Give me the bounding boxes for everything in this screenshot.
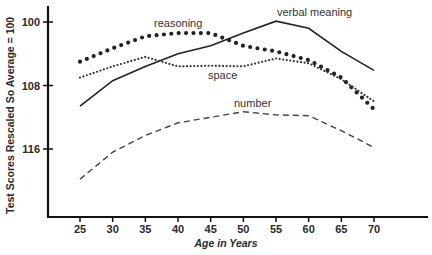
x-tick-label: 25 bbox=[74, 223, 86, 235]
x-tick-label: 50 bbox=[237, 223, 249, 235]
y-axis-title: Test Scores Rescaled So Average = 100 bbox=[4, 17, 16, 214]
label-reasoning: reasoning bbox=[154, 17, 202, 29]
label-number: number bbox=[234, 97, 272, 109]
y-tick-label: 100 bbox=[22, 16, 40, 28]
series-number bbox=[80, 112, 374, 180]
line-chart: 116108100 25303540455055606570 Test Scor… bbox=[0, 0, 432, 255]
x-tick-label: 65 bbox=[335, 223, 347, 235]
label-verbal-meaning: verbal meaning bbox=[277, 6, 352, 18]
x-tick-label: 70 bbox=[368, 223, 380, 235]
x-axis-title: Age in Years bbox=[193, 237, 257, 249]
x-tick-label: 35 bbox=[139, 223, 151, 235]
label-space: space bbox=[208, 69, 237, 81]
y-tick-label: 108 bbox=[22, 80, 40, 92]
series-group bbox=[80, 21, 374, 179]
x-tick-label: 45 bbox=[205, 223, 217, 235]
x-tick-label: 40 bbox=[172, 223, 184, 235]
y-tick-label: 116 bbox=[22, 143, 40, 155]
x-tick-label: 30 bbox=[107, 223, 119, 235]
x-ticks: 25303540455055606570 bbox=[74, 217, 380, 235]
x-tick-label: 55 bbox=[270, 223, 282, 235]
x-tick-label: 60 bbox=[303, 223, 315, 235]
